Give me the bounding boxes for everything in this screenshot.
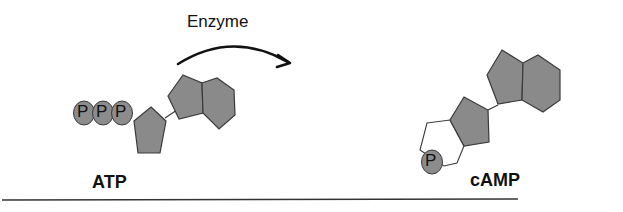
atp-adenine-hexagon bbox=[202, 78, 235, 129]
camp-adenine-pentagon bbox=[487, 50, 523, 104]
reaction-arrow bbox=[178, 46, 290, 67]
atp-phosphate-2: P bbox=[96, 102, 107, 122]
atp-phosphate-1: P bbox=[77, 102, 88, 122]
camp-molecule bbox=[420, 50, 560, 174]
camp-label: cAMP bbox=[470, 170, 520, 191]
atp-phosphate-3: P bbox=[115, 102, 126, 122]
enzyme-label: Enzyme bbox=[187, 12, 248, 32]
atp-label: ATP bbox=[92, 172, 127, 193]
camp-phosphate-label: P bbox=[425, 151, 436, 171]
camp-adenine-hexagon bbox=[522, 55, 560, 112]
baseline-rule bbox=[2, 199, 518, 200]
reaction-diagram: P P P P Enzyme ATP cAMP bbox=[0, 0, 623, 212]
atp-ribose-pentagon bbox=[134, 107, 166, 153]
